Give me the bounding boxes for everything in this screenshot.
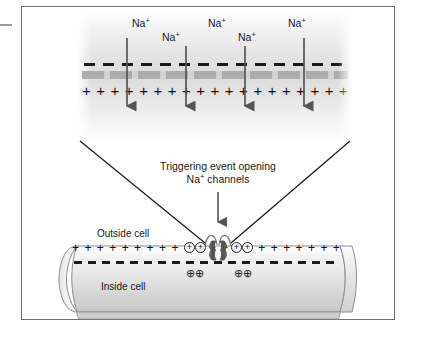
- edge-tick-mark: [0, 24, 12, 26]
- charge-plus-glyph: +: [97, 242, 104, 254]
- charge-plus-glyph: +: [96, 83, 105, 98]
- charge-plus-glyph: +: [109, 242, 116, 254]
- charge-plus-glyph: +: [225, 83, 234, 98]
- outside-cell-label: Outside cell: [97, 228, 149, 239]
- inside-cell-label: Inside cell: [101, 281, 145, 292]
- trigger-caption-line-1: Triggering event opening: [128, 160, 308, 173]
- charge-plus-glyph: +: [72, 242, 79, 254]
- charge-plus-glyph: +: [308, 242, 315, 254]
- sodium-label: Na+: [132, 18, 150, 29]
- charge-plus-glyph: +: [168, 83, 177, 98]
- charge-plus-glyph: +: [211, 83, 220, 98]
- charge-plus-glyph: +: [134, 242, 141, 254]
- entering-sodium-ion: +: [242, 242, 253, 253]
- lipid-bilayer-band: [82, 71, 348, 79]
- charge-plus-glyph: +: [268, 83, 277, 98]
- sodium-label: Na+: [208, 18, 226, 29]
- sodium-label: Na+: [288, 18, 306, 29]
- trigger-caption-line-2: Na+ channels: [128, 173, 308, 186]
- charge-plus-glyph: +: [320, 242, 327, 254]
- charge-plus-glyph: +: [296, 242, 303, 254]
- charge-plus-glyph: +: [311, 83, 320, 98]
- sodium-channel-protein-icon: [203, 232, 233, 268]
- charge-plus-glyph: +: [84, 242, 91, 254]
- sodium-label: Na+: [238, 32, 256, 43]
- charge-plus-glyph: +: [271, 242, 278, 254]
- charge-plus-glyph: +: [333, 242, 340, 254]
- charge-plus-glyph: +: [111, 83, 120, 98]
- charge-plus-glyph: +: [282, 83, 291, 98]
- charge-plus-glyph: +: [125, 83, 134, 98]
- panel-outer-negative-charge-row: [84, 63, 346, 66]
- sodium-label: Na+: [162, 32, 180, 43]
- entering-sodium-ion: +: [184, 242, 195, 253]
- charge-plus-glyph: +: [239, 83, 248, 98]
- charge-plus-glyph: +: [147, 242, 154, 254]
- charge-plus-glyph: +: [283, 242, 290, 254]
- charge-plus-glyph: +: [325, 83, 334, 98]
- charge-plus-glyph: +: [253, 83, 262, 98]
- charge-plus-glyph: +: [159, 242, 166, 254]
- intracellular-ion-pair: ⊕⊕: [234, 268, 251, 279]
- charge-plus-glyph: +: [153, 83, 162, 98]
- na-channel-figure: +++++++++++++++++++ Na+ Na+ Na+ Na+ Na+: [0, 0, 433, 346]
- charge-plus-glyph: +: [339, 83, 348, 98]
- intracellular-ion-pair: ⊕⊕: [186, 268, 203, 279]
- charge-plus-glyph: +: [122, 242, 129, 254]
- charge-plus-glyph: +: [258, 242, 265, 254]
- panel-inner-positive-charge-row: +++++++++++++++++++: [82, 82, 348, 98]
- charge-plus-glyph: +: [171, 242, 178, 254]
- magnified-membrane-panel: +++++++++++++++++++: [78, 12, 352, 140]
- trigger-event-caption: Triggering event opening Na+ channels: [128, 160, 308, 185]
- charge-plus-glyph: +: [82, 83, 91, 98]
- charge-plus-glyph: +: [139, 83, 148, 98]
- charge-plus-glyph: +: [182, 83, 191, 98]
- charge-plus-glyph: +: [296, 83, 305, 98]
- charge-plus-glyph: +: [196, 83, 205, 98]
